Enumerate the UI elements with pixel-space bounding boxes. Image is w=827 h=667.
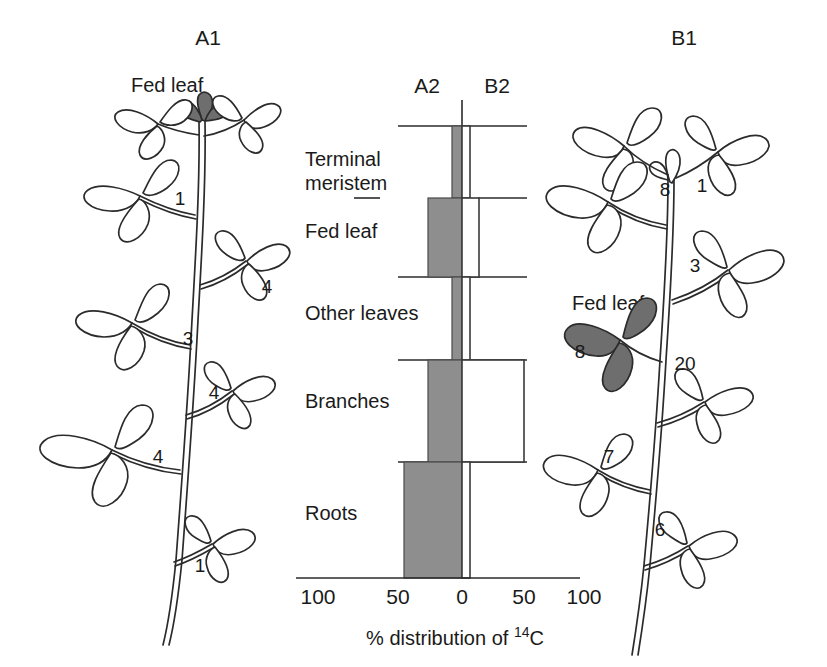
leaf-a1-node4c: 4 [40,405,181,506]
bar-b2-terminal-meristem [462,126,470,198]
plant-number-a1-1b: 1 [195,555,206,576]
bar-a2-roots [404,462,462,578]
row-label-terminal-meristem-line2: meristem [305,172,387,194]
bar-b2-other-leaves [462,277,470,360]
bar-b2-roots [462,462,470,578]
plant-number-b1-3: 3 [690,255,701,276]
leaf-b1-node7: 7 [543,434,651,516]
bar-b2-fed-leaf [462,198,479,277]
plant-b1: B1 Fed leaf [543,26,784,655]
column-header-b2: B2 [484,74,510,97]
plant-number-a1-3: 3 [183,328,194,349]
leaf-a1-node1: 1 [84,160,196,242]
leaf-a1-node3: 3 [76,284,193,370]
leaf-b1-node6: 6 [644,512,737,588]
plant-number-b1-8a: 8 [660,179,671,200]
figure-root: A1 Fed leaf [0,0,827,667]
bar-a2-fed-leaf [428,198,462,277]
bar-chart: A2 B2 Terminal meristem Fed leaf Other l… [296,74,602,649]
x-axis-title-suffix: C [529,627,543,649]
x-tick-label-100-left: 100 [300,585,335,608]
x-tick-label-0: 0 [456,585,468,608]
figure-svg: A1 Fed leaf [0,0,827,667]
leaf-a1-upper-right [204,96,281,153]
bar-b2-branches [462,360,524,462]
bar-a2-terminal-meristem [452,126,462,198]
panel-title-b1: B1 [671,26,697,49]
plant-number-a1-4b: 4 [209,382,220,403]
leaf-a1-upper-left [115,100,199,159]
plant-number-b1-6: 6 [655,519,666,540]
panel-title-a1: A1 [195,26,221,49]
leaf-a1-node1b: 1 [174,516,255,582]
row-label-other-leaves: Other leaves [305,302,418,324]
row-label-roots: Roots [305,502,357,524]
row-label-branches: Branches [305,390,390,412]
leaf-b1-node3: 3 [672,231,784,317]
x-axis-title-superscript: 14 [514,624,530,640]
leaf-a1-node4a: 4 [200,231,290,300]
plant-number-a1-1: 1 [175,188,186,209]
bar-a2-other-leaves [452,277,462,360]
plant-number-a1-4a: 4 [262,276,273,297]
bar-a2-branches [428,360,462,462]
x-tick-label-50-right: 50 [512,585,535,608]
leaf-a1-node4b: 4 [186,362,275,429]
x-axis-title-prefix: % distribution of [366,627,514,649]
row-label-fed-leaf: Fed leaf [305,220,378,242]
x-axis-title: % distribution of 14C [366,624,544,649]
plant-number-a1-4c: 4 [153,446,164,467]
x-tick-label-100-right: 100 [566,585,601,608]
plant-number-b1-7: 7 [604,446,615,467]
plant-number-b1-1: 1 [697,175,708,196]
fed-leaf-label-a1: Fed leaf [131,74,204,96]
plant-number-b1-20: 20 [674,353,695,374]
plant-a1: A1 Fed leaf [40,26,290,645]
plant-number-b1-8b: 8 [575,341,586,362]
x-tick-label-50-left: 50 [386,585,409,608]
leaf-b1-node20: 20 [657,353,753,443]
row-label-terminal-meristem-line1: Terminal [305,148,381,170]
column-header-a2: A2 [414,74,440,97]
leaf-b1-top-right [676,116,769,195]
